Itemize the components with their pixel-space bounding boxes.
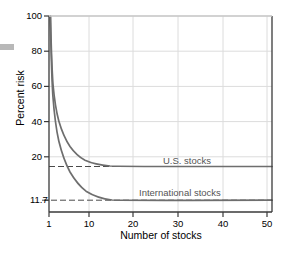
y-tick-label-20: 20 (18, 152, 42, 162)
x-axis-ticks (49, 212, 267, 217)
x-tick-label-1: 1 (38, 219, 60, 229)
y-axis-title: Percent risk (14, 58, 26, 138)
series-label-international-stocks: International stocks (139, 187, 221, 198)
risk-diversification-chart: 100 80 60 40 20 11.7 1 10 20 30 40 50 Pe… (0, 0, 282, 259)
plot-background (49, 16, 272, 212)
x-tick-label-20: 20 (122, 219, 144, 229)
y-tick-label-100: 100 (18, 11, 42, 21)
x-tick-label-40: 40 (212, 219, 234, 229)
annotation-11-7: 11.7 (30, 194, 48, 205)
x-tick-label-50: 50 (256, 219, 278, 229)
y-axis-ticks (44, 16, 49, 200)
y-tick-label-80: 80 (18, 46, 42, 56)
series-label-us-stocks: U.S. stocks (163, 155, 211, 166)
x-axis-title: Number of stocks (49, 229, 273, 241)
x-tick-label-30: 30 (167, 219, 189, 229)
x-tick-label-10: 10 (78, 219, 100, 229)
